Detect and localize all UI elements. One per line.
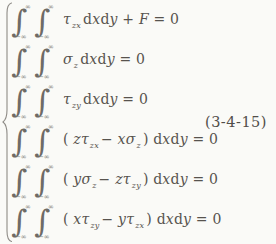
integral-operator: ∫ ∞ −∞ <box>34 163 57 201</box>
upper-limit: ∞ <box>25 203 31 211</box>
differential-d: d <box>153 171 162 187</box>
expression: ( xτzy− yτzx) dxdy = 0 <box>63 211 222 233</box>
tau-zx: τzx <box>63 11 83 27</box>
differential-d: d <box>153 131 162 147</box>
var-x: x <box>166 211 174 227</box>
sigma-z: σz <box>81 171 98 187</box>
math-subscript: zx <box>90 141 99 150</box>
minus-operator: − <box>99 171 116 187</box>
tau-zx: τzx <box>126 211 146 227</box>
var-z: z <box>73 131 81 147</box>
lower-limit: −∞ <box>38 193 50 201</box>
math-subscript: zx <box>72 21 81 30</box>
math-subscript: z <box>136 141 140 150</box>
tau-zy: τzy <box>81 211 101 227</box>
lower-limit: −∞ <box>38 113 50 121</box>
equation-row-6: ∫ ∞ −∞ ∫ ∞ −∞ ( xτzy− yτzx) dxdy = 0 <box>11 202 222 242</box>
upper-limit: ∞ <box>48 123 54 131</box>
equals-zero: = 0 <box>188 171 218 187</box>
var-y: y <box>180 171 188 187</box>
differential-d: d <box>174 211 183 227</box>
var-z: z <box>115 171 123 187</box>
equation-system: ∫ ∞ −∞ ∫ ∞ −∞ τzxdxdy + F = 0 ∫ ∞ −∞ ∫ ∞… <box>11 2 222 242</box>
differential-d: d <box>170 131 179 147</box>
equation-number: (3-4-15) <box>205 114 267 130</box>
integral-operator: ∫ ∞ −∞ <box>34 83 57 121</box>
lower-limit: −∞ <box>15 233 27 241</box>
open-paren: ( <box>63 131 73 147</box>
upper-limit: ∞ <box>25 123 31 131</box>
upper-limit: ∞ <box>25 83 31 91</box>
integral-operator: ∫ ∞ −∞ <box>11 163 34 201</box>
differential-d: d <box>170 171 179 187</box>
math-subscript: zy <box>132 181 141 190</box>
equals-zero: = 0 <box>118 91 148 107</box>
differential-d: d <box>100 91 109 107</box>
differential-d: d <box>80 51 89 67</box>
close-paren: ) <box>143 171 153 187</box>
differential-d: d <box>100 11 109 27</box>
expression: τzxdxdy + F = 0 <box>63 11 179 33</box>
var-y: y <box>183 211 191 227</box>
var-F: F <box>139 11 149 27</box>
scanned-formula-page: ∫ ∞ −∞ ∫ ∞ −∞ τzxdxdy + F = 0 ∫ ∞ −∞ ∫ ∞… <box>0 0 276 244</box>
integral-operator: ∫ ∞ −∞ <box>34 203 57 241</box>
expression: σzdxdy = 0 <box>63 51 145 73</box>
equals-zero: = 0 <box>149 11 179 27</box>
expression: ( yσz− zτzy) dxdy = 0 <box>63 171 218 193</box>
integral-operator: ∫ ∞ −∞ <box>11 3 34 41</box>
close-paren: ) <box>146 211 156 227</box>
equation-row-5: ∫ ∞ −∞ ∫ ∞ −∞ ( yσz− zτzy) dxdy = 0 <box>11 162 222 202</box>
lower-limit: −∞ <box>15 73 27 81</box>
upper-limit: ∞ <box>48 43 54 51</box>
lower-limit: −∞ <box>15 33 27 41</box>
upper-limit: ∞ <box>48 163 54 171</box>
tau-zx: τzx <box>81 131 101 147</box>
integral-operator: ∫ ∞ −∞ <box>11 83 34 121</box>
math-subscript: zy <box>72 101 81 110</box>
differential-d: d <box>97 51 106 67</box>
var-y: y <box>110 91 118 107</box>
tau-zy: τzy <box>63 91 83 107</box>
equals-zero: = 0 <box>188 131 218 147</box>
close-paren: ) <box>143 131 153 147</box>
lower-limit: −∞ <box>15 153 27 161</box>
var-y: y <box>118 211 126 227</box>
expression: τzydxdy = 0 <box>63 91 148 113</box>
differential-d: d <box>157 211 166 227</box>
math-subscript: zy <box>90 221 99 230</box>
differential-d: d <box>83 91 92 107</box>
equation-row-3: ∫ ∞ −∞ ∫ ∞ −∞ τzydxdy = 0 <box>11 82 222 122</box>
integral-operator: ∫ ∞ −∞ <box>34 123 57 161</box>
math-subscript: zx <box>135 221 144 230</box>
upper-limit: ∞ <box>48 203 54 211</box>
equation-row-4: ∫ ∞ −∞ ∫ ∞ −∞ ( zτzx− xσz) dxdy = 0 <box>11 122 222 162</box>
expression: ( zτzx− xσz) dxdy = 0 <box>63 131 218 153</box>
integral-operator: ∫ ∞ −∞ <box>11 123 34 161</box>
lower-limit: −∞ <box>38 153 50 161</box>
math-subscript: z <box>74 61 78 70</box>
open-paren: ( <box>63 211 73 227</box>
upper-limit: ∞ <box>25 163 31 171</box>
differential-d: d <box>83 11 92 27</box>
upper-limit: ∞ <box>25 43 31 51</box>
upper-limit: ∞ <box>25 3 31 11</box>
math-subscript: z <box>92 181 96 190</box>
lower-limit: −∞ <box>38 233 50 241</box>
integral-operator: ∫ ∞ −∞ <box>11 203 34 241</box>
plus-operator: + <box>118 11 139 27</box>
var-y: y <box>110 11 118 27</box>
var-y: y <box>107 51 115 67</box>
upper-limit: ∞ <box>48 83 54 91</box>
integral-operator: ∫ ∞ −∞ <box>11 43 34 81</box>
lower-limit: −∞ <box>15 113 27 121</box>
lower-limit: −∞ <box>38 33 50 41</box>
upper-limit: ∞ <box>48 3 54 11</box>
equation-row-2: ∫ ∞ −∞ ∫ ∞ −∞ σzdxdy = 0 <box>11 42 222 82</box>
minus-operator: − <box>102 211 119 227</box>
open-paren: ( <box>63 171 73 187</box>
equals-zero: = 0 <box>115 51 145 67</box>
sigma-z: σz <box>126 131 143 147</box>
integral-operator: ∫ ∞ −∞ <box>34 3 57 41</box>
lower-limit: −∞ <box>15 193 27 201</box>
